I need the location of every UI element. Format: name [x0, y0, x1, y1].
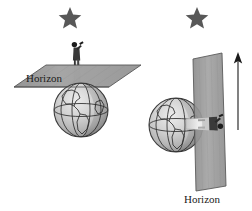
horizon-label-right: Horizon	[184, 193, 221, 205]
diagram-canvas: Horizon	[0, 0, 252, 211]
astronomy-horizon-diagram: Horizon	[0, 0, 252, 211]
horizon-label-left: Horizon	[26, 72, 63, 84]
earth-globe-left	[54, 83, 108, 137]
